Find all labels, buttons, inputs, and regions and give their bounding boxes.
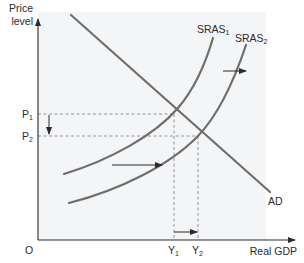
y1-label: Y1 bbox=[168, 244, 179, 257]
sras2-label: SRAS2 bbox=[235, 32, 268, 45]
origin-label: O bbox=[25, 244, 33, 256]
p1-label: P1 bbox=[22, 108, 33, 121]
y2-label: Y2 bbox=[192, 244, 203, 257]
sras1-label: SRAS1 bbox=[197, 23, 230, 36]
p2-label: P2 bbox=[22, 130, 33, 143]
y-axis-label-line1: Price bbox=[9, 2, 33, 14]
x-axis-label: Real GDP bbox=[250, 245, 297, 257]
plot-panel bbox=[38, 12, 266, 240]
y-axis-label-line2: level bbox=[11, 15, 33, 27]
ad-sras-diagram: Price level Real GDP O P1 P2 Y1 Y2 SRAS1… bbox=[0, 0, 304, 263]
ad-label: AD bbox=[268, 195, 283, 207]
